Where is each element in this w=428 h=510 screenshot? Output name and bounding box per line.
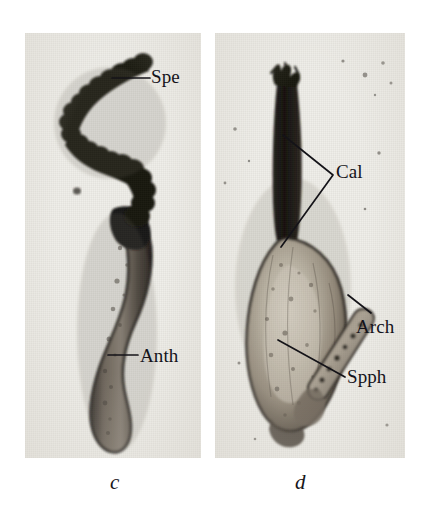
panel-c-image (25, 33, 201, 458)
calyptra-neck (271, 63, 302, 241)
label-spe-text: Spe (151, 66, 180, 88)
label-cal-text: Cal (336, 161, 363, 183)
specimen-c-antheridium (25, 33, 201, 458)
panel-d-image (215, 33, 405, 458)
figure-plate: Spe Anth Cal Arch Spph c d (0, 0, 428, 510)
debris-speck (73, 188, 81, 195)
specimen-d-sporophyte (215, 33, 405, 458)
label-spph-text: Spph (347, 366, 386, 388)
panel-caption-c: c (110, 470, 119, 495)
label-anth-text: Anth (140, 345, 178, 367)
label-arch-text: Arch (356, 316, 394, 338)
panel-caption-d: d (295, 470, 306, 495)
